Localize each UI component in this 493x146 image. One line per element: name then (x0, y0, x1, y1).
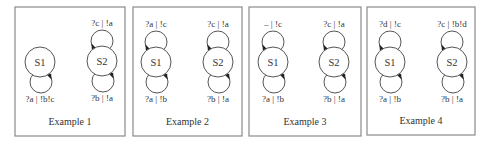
example-caption: Example 4 (399, 115, 442, 126)
state-label: S1 (34, 57, 45, 68)
transition-label-top: ?c | !a (207, 19, 228, 29)
example-caption: Example 2 (166, 116, 209, 127)
state-label: S2 (328, 57, 339, 68)
state-label: S2 (446, 57, 457, 68)
state-label: S2 (96, 56, 107, 67)
transition-label-bottom: ?a | !b (145, 94, 167, 104)
state-label: S1 (267, 57, 278, 68)
example-panel: ?d | !c?a | !bS1?c | !b!d?b | !aS2Exampl… (367, 7, 475, 135)
transition-label-bottom: ?a | !b (262, 94, 284, 104)
state-label: S1 (384, 57, 395, 68)
transition-label-bottom: ?b | !a (91, 93, 113, 103)
example-panel: – | !c?a | !bS1?c | !a?b | !aS2Example 3 (249, 7, 361, 136)
example-panel: ?a | !b!cS1?c | !a?b | !aS2Example 1 (15, 7, 125, 136)
transition-label-bottom: ?b | !a (441, 94, 463, 104)
transition-label-top: – | !c (263, 19, 282, 29)
transition-label-top: ?d | !c (379, 19, 401, 29)
transition-label-top: ?a | !c (145, 19, 166, 29)
example-caption: Example 1 (48, 116, 91, 127)
state-label: S2 (212, 57, 223, 68)
transition-label-bottom: ?b | !a (323, 94, 345, 104)
transition-label-bottom: ?a | !b (379, 94, 401, 104)
example-caption: Example 3 (283, 116, 326, 127)
transition-label-top: ?c | !b!d (437, 19, 467, 29)
example-panel: ?a | !c?a | !bS1?c | !a?b | !aS2Example … (133, 7, 242, 136)
state-machine-diagram: ?a | !b!cS1?c | !a?b | !aS2Example 1?a |… (0, 0, 493, 146)
transition-label-bottom: ?b | !a (207, 94, 229, 104)
transition-label-bottom: ?a | !b!c (26, 94, 55, 104)
state-label: S1 (150, 57, 161, 68)
transition-label-top: ?c | !a (91, 18, 112, 28)
diagram-canvas: ?a | !b!cS1?c | !a?b | !aS2Example 1?a |… (0, 0, 493, 146)
transition-label-top: ?c | !a (323, 19, 344, 29)
